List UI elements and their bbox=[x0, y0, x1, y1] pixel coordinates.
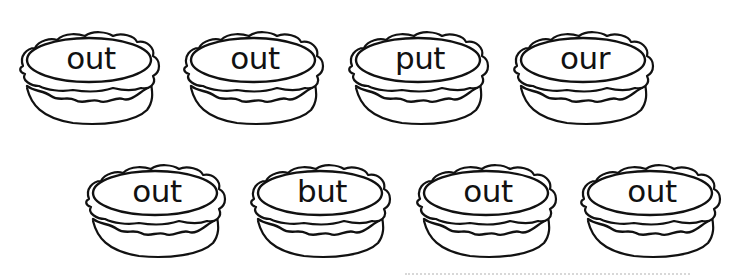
pie-word-card[interactable]: put bbox=[342, 26, 494, 126]
pie-word-card[interactable]: our bbox=[507, 26, 659, 126]
pie-word-card[interactable]: out bbox=[574, 159, 726, 259]
pie-word-card[interactable]: out bbox=[177, 26, 329, 126]
pie-word: out bbox=[193, 38, 317, 78]
pie-word: out bbox=[426, 171, 550, 211]
pie-word: out bbox=[590, 171, 714, 211]
dotted-divider bbox=[405, 273, 690, 275]
pie-word-card[interactable]: out bbox=[79, 159, 231, 259]
pie-word: out bbox=[95, 171, 219, 211]
pie-word-card[interactable]: out bbox=[13, 26, 165, 126]
pie-word: but bbox=[260, 171, 384, 211]
pie-word-card[interactable]: but bbox=[244, 159, 396, 259]
pie-word: our bbox=[523, 38, 647, 78]
pie-word-card[interactable]: out bbox=[410, 159, 562, 259]
pie-word: out bbox=[29, 38, 153, 78]
pie-word: put bbox=[358, 38, 482, 78]
